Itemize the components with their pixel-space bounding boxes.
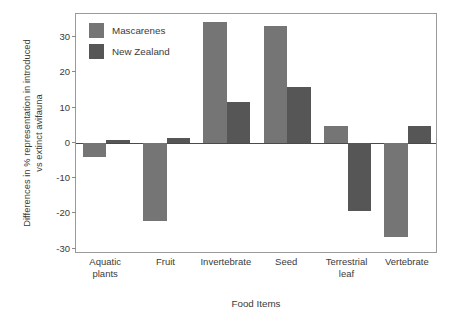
bar-new-zealand (167, 138, 191, 143)
x-tick-label: Seed (275, 256, 297, 268)
x-tick-label: Fruit (156, 256, 175, 268)
bar-new-zealand (348, 143, 372, 211)
y-tick-mark (72, 212, 76, 213)
x-tick-label: Invertebrate (200, 256, 251, 268)
y-tick-label: 10 (59, 101, 70, 112)
y-tick-mark (72, 177, 76, 178)
bar-mascarenes (143, 143, 167, 221)
legend-swatch-mascarenes (89, 23, 104, 38)
y-tick-label: -30 (56, 242, 70, 253)
y-tick-mark (72, 248, 76, 249)
y-tick-label: -20 (56, 207, 70, 218)
y-tick-mark (72, 71, 76, 72)
y-axis-tick-labels: 3020100-10-20-30 (46, 0, 70, 321)
y-axis-title-line-1: Differences in % representation in intro… (22, 39, 32, 227)
x-tick-label-line: plants (89, 268, 121, 280)
x-tick-label-line: Terrestrial (326, 256, 368, 267)
x-tick-label-line: Invertebrate (200, 256, 251, 267)
bar-mascarenes (264, 26, 288, 143)
bar-mascarenes (324, 126, 348, 143)
y-tick-label: -10 (56, 172, 70, 183)
legend-label-mascarenes: Mascarenes (112, 25, 165, 36)
x-tick-label: Aquaticplants (89, 256, 121, 279)
legend: Mascarenes New Zealand (89, 22, 170, 64)
y-tick-mark (72, 107, 76, 108)
bar-chart-figure: Differences in % representation in intro… (0, 0, 459, 321)
bar-new-zealand (287, 87, 311, 142)
y-axis-title-container: Differences in % representation in intro… (18, 13, 48, 253)
bar-mascarenes (203, 22, 227, 143)
x-axis-tick-labels: AquaticplantsFruitInvertebrateSeedTerres… (75, 256, 437, 290)
legend-item-new-zealand: New Zealand (89, 43, 170, 60)
x-tick-label-line: Seed (275, 256, 297, 267)
zero-baseline (76, 143, 436, 144)
bar-new-zealand (408, 126, 432, 143)
legend-item-mascarenes: Mascarenes (89, 22, 170, 39)
y-tick-label: 30 (59, 30, 70, 41)
y-tick-mark (72, 142, 76, 143)
legend-swatch-new-zealand (89, 44, 104, 59)
bar-mascarenes (384, 143, 408, 238)
bar-new-zealand (106, 140, 130, 142)
bar-new-zealand (227, 102, 251, 143)
y-tick-label: 0 (65, 136, 70, 147)
legend-label-new-zealand: New Zealand (112, 46, 170, 57)
y-tick-mark (72, 36, 76, 37)
x-tick-label-line: Aquatic (89, 256, 121, 267)
y-axis-title: Differences in % representation in intro… (21, 39, 45, 227)
x-tick-label: Vertebrate (385, 256, 429, 268)
plot-area: Mascarenes New Zealand (75, 13, 437, 253)
x-tick-label: Terrestrialleaf (326, 256, 368, 279)
y-tick-label: 20 (59, 66, 70, 77)
x-axis-title: Food Items (75, 298, 437, 309)
y-axis-title-line-2: vs extinct avifauna (33, 39, 45, 227)
x-tick-label-line: Fruit (156, 256, 175, 267)
bar-mascarenes (83, 143, 107, 157)
x-tick-label-line: leaf (326, 268, 368, 280)
x-tick-label-line: Vertebrate (385, 256, 429, 267)
